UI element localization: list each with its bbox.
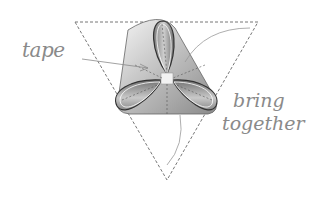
bring-together-curve-upper: [185, 28, 250, 62]
tape-square: [161, 73, 173, 84]
bring-label: bring: [233, 89, 285, 111]
tape-label: tape: [22, 38, 65, 62]
together-label: together: [222, 112, 305, 134]
bring-together-curve-lower: [167, 115, 181, 165]
